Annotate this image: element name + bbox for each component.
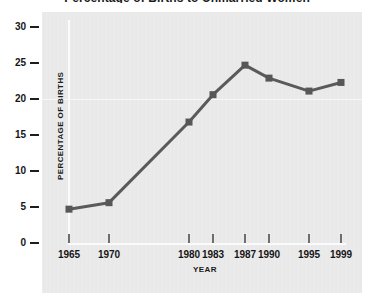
x-tick-label: 1970 [98,249,120,260]
y-tick-label: 30 [2,22,26,32]
x-tick-label: 1995 [298,249,320,260]
x-tick-label: 1987 [234,249,256,260]
y-tick-label: 15 [2,130,26,140]
y-tick-mark [30,62,39,64]
y-tick-mark [30,26,39,28]
y-tick-label: 5 [2,202,26,212]
y-tick-mark [30,170,39,172]
y-tick-mark [30,98,39,100]
x-axis-title: YEAR [193,265,217,274]
data-point-marker [306,88,313,95]
y-tick-label: 25 [2,58,26,68]
data-point-marker [210,91,217,98]
y-tick-mark [30,242,39,244]
series-line [69,65,341,209]
data-point-marker [66,206,73,213]
data-point-marker [242,62,249,69]
y-tick-mark [30,134,39,136]
x-tick-label: 1980 [178,249,200,260]
y-axis-title: PERCENTAGE OF BIRTHS [56,72,65,180]
y-tick-label: 10 [2,166,26,176]
data-point-marker [106,199,113,206]
x-tick-label: 1990 [258,249,280,260]
x-tick-label: 1965 [58,249,80,260]
x-tick-label: 1999 [330,249,352,260]
y-tick-label: 20 [2,94,26,104]
data-point-marker [266,75,273,82]
chart-figure: Percentage of Births to Unmarried Women … [0,0,374,303]
data-point-marker [186,119,193,126]
x-tick-label: 1983 [202,249,224,260]
data-point-marker [338,79,345,86]
y-tick-label: 0 [2,238,26,248]
chart-title-cropped: Percentage of Births to Unmarried Women [0,0,374,3]
y-tick-mark [30,206,39,208]
